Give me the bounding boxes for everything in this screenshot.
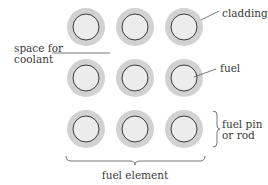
fuel-pin-grid <box>67 8 203 148</box>
coolant-label-line2: coolant <box>14 53 54 65</box>
cladding-label: cladding <box>222 7 268 19</box>
fuel-label: fuel <box>220 62 241 74</box>
fuel-pin-brace <box>213 111 220 147</box>
fuel-pin <box>116 59 154 97</box>
fuel-pin <box>67 8 105 46</box>
fuel-pin <box>116 110 154 148</box>
fuel-pin <box>116 8 154 46</box>
fuel-pin <box>165 59 203 97</box>
fuel-pin <box>165 8 203 46</box>
fuel-element-brace <box>66 156 205 165</box>
fuel-pin <box>67 59 105 97</box>
fuel-element-label: fuel element <box>102 169 169 181</box>
fuel-pin <box>165 110 203 148</box>
fuel-element-diagram: cladding fuel space for coolant fuel pin… <box>0 0 268 185</box>
fuel-pin-label-line2: or rod <box>222 129 255 141</box>
cladding-leader-line <box>201 11 219 20</box>
fuel-pin <box>67 110 105 148</box>
